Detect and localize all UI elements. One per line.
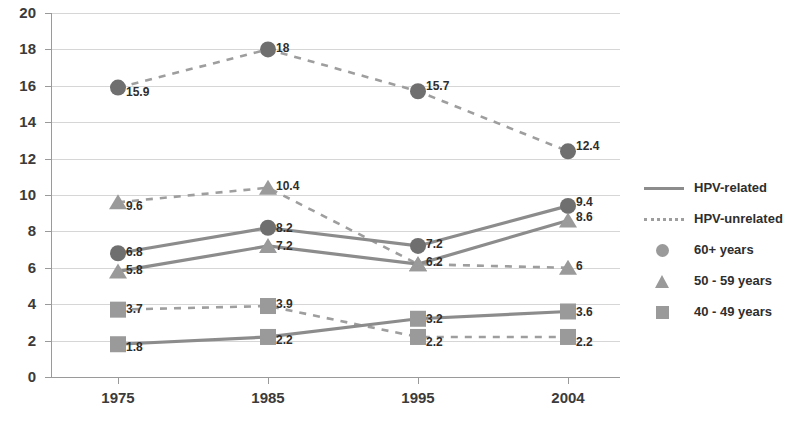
point-label: 15.9	[126, 86, 149, 98]
point-label: 18	[276, 42, 289, 54]
point-label: 8.6	[576, 211, 593, 223]
gridline	[51, 231, 620, 232]
point-label: 12.4	[576, 140, 599, 152]
point-label: 10.4	[276, 180, 299, 192]
triangle-marker-icon	[640, 271, 686, 291]
point-label: 9.4	[576, 196, 593, 208]
gridline	[51, 49, 620, 50]
y-tick	[45, 49, 51, 50]
point-label: 2.2	[276, 334, 293, 346]
gridline	[51, 159, 620, 160]
y-tick	[45, 86, 51, 87]
legend-item-40-49-years[interactable]: 40 - 49 years	[640, 302, 790, 333]
legend-label: 60+ years	[694, 242, 754, 257]
y-axis-tick-label: 0	[2, 370, 36, 384]
y-tick	[45, 13, 51, 14]
series-2	[110, 298, 576, 345]
point-label: 6.2	[426, 256, 443, 268]
data-point-marker	[560, 198, 576, 214]
data-point-marker	[560, 143, 576, 159]
y-tick	[45, 268, 51, 269]
x-tick	[118, 377, 119, 384]
legend-label: HPV-related	[694, 180, 767, 195]
legend-item-hpv-unrelated[interactable]: HPV-unrelated	[640, 209, 790, 240]
legend-label: 40 - 49 years	[694, 304, 772, 319]
y-tick	[45, 122, 51, 123]
series-3	[110, 198, 576, 261]
y-axis-tick-label: 18	[2, 42, 36, 56]
data-point-marker	[260, 329, 276, 345]
data-point-marker	[560, 303, 576, 319]
x-axis-tick-label: 2004	[528, 390, 608, 406]
point-label: 6	[576, 260, 583, 272]
legend-item-hpv-related[interactable]: HPV-related	[640, 178, 790, 209]
data-point-marker	[109, 194, 127, 209]
data-point-marker	[260, 220, 276, 236]
point-label: 2.2	[426, 336, 443, 348]
series-5	[110, 303, 576, 352]
data-point-marker	[259, 180, 277, 195]
legend-item-60-plus-years[interactable]: 60+ years	[640, 240, 790, 271]
dotted-line-icon	[640, 209, 686, 229]
chart-container: 20 18 16 14 12 10 8 6 4 2 0 1975 1985 19…	[0, 0, 798, 423]
y-axis-tick-label: 10	[2, 188, 36, 202]
circle-marker-icon	[640, 240, 686, 260]
data-point-marker	[260, 298, 276, 314]
data-point-marker	[110, 336, 126, 352]
y-axis-line	[51, 13, 52, 378]
series-0	[110, 41, 576, 159]
data-point-marker	[410, 311, 426, 327]
point-label: 5.8	[126, 264, 143, 276]
point-label: 6.8	[126, 246, 143, 258]
legend-label: HPV-unrelated	[694, 211, 783, 226]
data-point-marker	[560, 329, 576, 345]
y-axis-tick-label: 8	[2, 224, 36, 238]
y-axis-tick-label: 6	[2, 261, 36, 275]
point-label: 7.2	[276, 240, 293, 252]
series-1	[109, 180, 577, 275]
point-label: 15.7	[426, 80, 449, 92]
x-tick	[418, 377, 419, 384]
data-point-marker	[259, 238, 277, 253]
point-label: 1.8	[126, 341, 143, 353]
x-tick	[268, 377, 269, 384]
point-label: 3.2	[426, 313, 443, 325]
gridline	[51, 195, 620, 196]
y-tick	[45, 195, 51, 196]
x-axis-tick-label: 1985	[228, 390, 308, 406]
y-tick	[45, 377, 51, 378]
legend-item-50-59-years[interactable]: 50 - 59 years	[640, 271, 790, 302]
data-point-marker	[109, 263, 127, 278]
y-axis-tick-label: 20	[2, 6, 36, 20]
data-point-marker	[410, 329, 426, 345]
y-tick	[45, 159, 51, 160]
data-point-marker	[559, 212, 577, 227]
y-axis-tick-label: 12	[2, 152, 36, 166]
point-label: 9.6	[126, 200, 143, 212]
data-point-marker	[110, 80, 126, 96]
legend-label: 50 - 59 years	[694, 273, 772, 288]
point-label: 3.9	[276, 298, 293, 310]
x-axis-tick-label: 1975	[78, 390, 158, 406]
data-point-marker	[410, 238, 426, 254]
point-label: 8.2	[276, 222, 293, 234]
point-label: 7.2	[426, 238, 443, 250]
y-tick	[45, 341, 51, 342]
x-tick	[568, 377, 569, 384]
y-axis-tick-label: 4	[2, 297, 36, 311]
data-point-marker	[110, 245, 126, 261]
point-label: 3.7	[126, 303, 143, 315]
gridline	[51, 122, 620, 123]
chart-legend: HPV-related HPV-unrelated 60+ years 50 -…	[640, 178, 790, 333]
y-tick	[45, 231, 51, 232]
y-axis-tick-label: 2	[2, 334, 36, 348]
x-axis-tick-label: 1995	[378, 390, 458, 406]
gridline	[51, 13, 620, 14]
solid-line-icon	[640, 178, 686, 198]
point-label: 2.2	[576, 336, 593, 348]
square-marker-icon	[640, 302, 686, 322]
point-label: 3.6	[576, 306, 593, 318]
y-axis-tick-label: 16	[2, 79, 36, 93]
y-axis-tick-label: 14	[2, 115, 36, 129]
x-axis-line	[51, 377, 620, 378]
